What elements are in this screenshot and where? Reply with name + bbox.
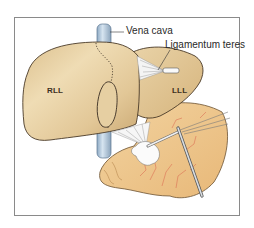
right-lobe — [23, 42, 140, 140]
label-rll: RLL — [47, 87, 63, 95]
label-vena-cava: Vena cava — [126, 26, 173, 36]
label-lll: LLL — [172, 87, 187, 95]
label-ligamentum-teres: Ligamentum teres — [165, 40, 245, 50]
